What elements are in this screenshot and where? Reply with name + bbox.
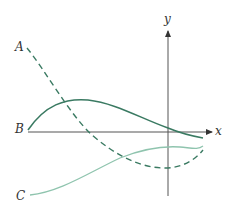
curve-a xyxy=(27,48,203,168)
function-graph: A B C x y xyxy=(0,0,240,212)
label-curve-a: A xyxy=(14,40,24,54)
label-curve-c: C xyxy=(16,189,25,203)
curve-c xyxy=(30,146,203,195)
label-curve-b: B xyxy=(14,122,24,136)
label-y-axis: y xyxy=(163,12,171,26)
label-x-axis: x xyxy=(215,124,222,138)
